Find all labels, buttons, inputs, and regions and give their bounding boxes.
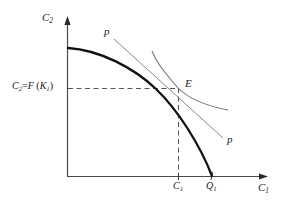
ppf-diagram: C2 C1 C2=F (K1) C1 Q1 E p p [0, 0, 281, 206]
tick-label-q1: Q1 [206, 181, 217, 192]
axis-group [64, 16, 268, 180]
ppf-curve-group [68, 48, 212, 176]
x-axis-arrowhead [259, 173, 268, 179]
y-axis-arrowhead [64, 16, 70, 25]
ppf-curve [68, 48, 212, 176]
x-axis-label: C1 [258, 182, 269, 194]
guide-lines-group [68, 88, 179, 176]
tick-label-c1: C1 [173, 181, 183, 192]
price-label-lower: p [227, 134, 233, 145]
price-label-upper: p [104, 26, 110, 37]
point-label-e: E [185, 78, 192, 89]
y-axis-label: C2 [42, 12, 53, 24]
y-value-label: C2=F (K1) [12, 81, 53, 92]
diagram-canvas [0, 0, 281, 206]
